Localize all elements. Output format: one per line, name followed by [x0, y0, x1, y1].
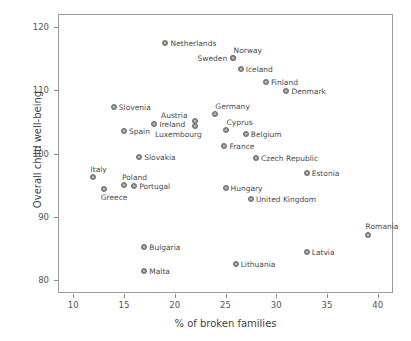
data-point-label: Germany: [215, 102, 249, 111]
data-point-label: United Kingdom: [256, 195, 316, 204]
x-tick-label: 15: [111, 300, 137, 310]
data-point-label: Cyprus: [227, 118, 253, 127]
x-tick-mark: [175, 294, 176, 298]
data-point-label: Malta: [149, 267, 170, 276]
data-point-label: Lithuania: [241, 260, 276, 269]
data-point-label: Portugal: [139, 182, 170, 191]
data-point[interactable]: [111, 104, 117, 110]
data-point-label: Belgium: [251, 130, 282, 139]
data-point[interactable]: [304, 249, 310, 255]
scatter-chart: 809010011012010152025303540 NetherlandsS…: [0, 0, 411, 341]
x-tick-mark: [226, 294, 227, 298]
y-tick-mark: [54, 90, 58, 91]
data-point[interactable]: [238, 66, 244, 72]
x-tick-mark: [73, 294, 74, 298]
data-point-label: Denmark: [291, 87, 325, 96]
data-point-label: Sweden: [198, 54, 228, 63]
data-point[interactable]: [243, 131, 249, 137]
data-point-label: Poland: [122, 173, 147, 182]
data-point-label: Finland: [271, 78, 298, 87]
data-point[interactable]: [248, 196, 254, 202]
data-point-label: Netherlands: [171, 39, 217, 48]
x-tick-label: 40: [365, 300, 391, 310]
data-point-label: Norway: [234, 46, 262, 55]
data-point-label: Latvia: [312, 248, 335, 257]
data-point-label: Luxembourg: [155, 130, 202, 139]
x-tick-mark: [378, 294, 379, 298]
data-point-label: Slovenia: [119, 103, 151, 112]
x-tick-mark: [124, 294, 125, 298]
data-point[interactable]: [162, 40, 168, 46]
data-point-label: Bulgaria: [149, 243, 180, 252]
data-point-label: Hungary: [231, 184, 263, 193]
y-tick-label: 80: [25, 275, 49, 285]
data-point-label: Italy: [91, 165, 107, 174]
y-tick-mark: [54, 27, 58, 28]
x-tick-label: 10: [60, 300, 86, 310]
x-tick-label: 20: [162, 300, 188, 310]
x-tick-label: 25: [213, 300, 239, 310]
data-point-label: Ireland: [159, 120, 185, 129]
data-point[interactable]: [230, 55, 236, 61]
y-axis-title: Overall child well-being: [32, 40, 43, 260]
y-tick-mark: [54, 280, 58, 281]
data-point-label: Slovakia: [144, 153, 176, 162]
y-tick-label: 120: [25, 22, 49, 32]
x-tick-mark: [327, 294, 328, 298]
data-point[interactable]: [365, 232, 371, 238]
data-point-label: Czech Republic: [261, 154, 318, 163]
data-point-label: Spain: [129, 127, 150, 136]
data-point[interactable]: [304, 170, 310, 176]
y-tick-mark: [54, 154, 58, 155]
data-point-label: Iceland: [246, 65, 273, 74]
x-tick-mark: [276, 294, 277, 298]
data-point-label: France: [229, 142, 254, 151]
x-tick-label: 30: [263, 300, 289, 310]
y-tick-mark: [54, 217, 58, 218]
data-point[interactable]: [253, 155, 259, 161]
data-point[interactable]: [101, 186, 107, 192]
data-point[interactable]: [90, 174, 96, 180]
data-point[interactable]: [223, 185, 229, 191]
x-tick-label: 35: [314, 300, 340, 310]
data-point-label: Romania: [366, 222, 399, 231]
x-axis-title: % of broken families: [58, 318, 393, 329]
data-point[interactable]: [223, 127, 229, 133]
data-point-label: Greece: [101, 193, 128, 202]
data-point-label: Estonia: [312, 169, 340, 178]
